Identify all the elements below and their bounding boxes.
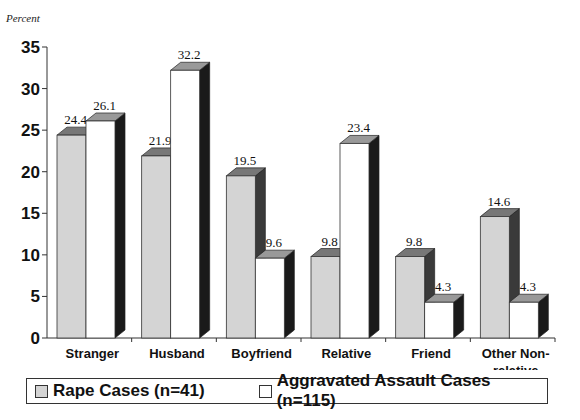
data-label: 9.6 [266,235,283,250]
bar [57,135,86,338]
x-tick-label: Boyfriend [231,346,292,361]
y-axis-label: Percent [5,12,41,24]
legend-item-rape: Rape Cases (n=41) [35,381,205,401]
y-tick-label: 10 [21,246,40,265]
bar-chart: Percent0510152025303524.426.1Stranger21.… [0,0,580,370]
legend-item-assault: Aggravated Assault Cases (n=115) [259,371,547,411]
legend-label-assault: Aggravated Assault Cases (n=115) [277,371,547,411]
data-label: 23.4 [347,120,370,135]
data-label: 24.4 [64,112,87,127]
x-tick-label: relative [493,363,539,370]
bar [86,121,115,338]
bar [340,143,369,338]
x-tick-label: Stranger [66,346,119,361]
bar [142,156,171,338]
x-tick-label: Friend [411,346,451,361]
data-label: 19.5 [233,153,256,168]
x-tick-label: Relative [321,346,371,361]
bar [480,217,509,338]
legend-swatch-assault [259,385,272,398]
bar [425,302,454,338]
data-label: 4.3 [520,279,536,294]
data-label: 32.2 [178,47,201,62]
data-label: 9.8 [406,234,422,249]
data-label: 9.8 [321,234,337,249]
data-label: 4.3 [435,279,451,294]
x-tick-label: Husband [149,346,205,361]
x-tick-label: Other Non- [482,346,550,361]
y-tick-label: 25 [21,121,40,140]
y-tick-label: 5 [31,287,40,306]
bar [509,302,538,338]
y-tick-label: 30 [21,80,40,99]
bar [255,258,284,338]
data-label: 21.9 [149,133,172,148]
data-label: 26.1 [93,98,116,113]
y-tick-label: 35 [21,38,40,57]
legend-label-rape: Rape Cases (n=41) [53,381,205,401]
bar [226,176,255,338]
bar [311,257,340,338]
y-tick-label: 15 [21,204,40,223]
bar [396,257,425,338]
legend: Rape Cases (n=41) Aggravated Assault Cas… [26,378,548,404]
data-label: 14.6 [487,194,510,209]
y-tick-label: 0 [31,329,40,348]
y-tick-label: 20 [21,163,40,182]
legend-swatch-rape [35,385,48,398]
bar [171,70,200,338]
